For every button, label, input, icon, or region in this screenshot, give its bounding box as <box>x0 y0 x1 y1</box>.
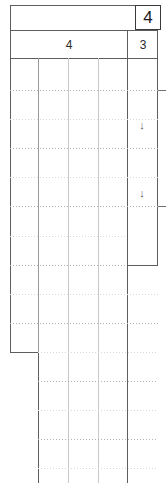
row-guide <box>38 410 158 411</box>
column-header-group-label: 4 <box>66 38 73 52</box>
row-guide <box>10 294 158 295</box>
row-guide <box>38 352 158 353</box>
row-guide <box>10 265 127 266</box>
row-guide <box>10 90 158 91</box>
column-header-group[interactable]: 4 <box>11 31 127 58</box>
outer-border-left-lower <box>38 352 39 483</box>
arrow-down-icon: ↓ <box>136 120 148 131</box>
column-header-single[interactable]: 3 <box>128 31 158 58</box>
row-guide <box>38 468 158 469</box>
arrow-down-glyph-1: ↓ <box>139 119 145 131</box>
edge-tick-2 <box>158 206 166 207</box>
row-guide <box>10 236 127 237</box>
arrow-down-icon: ↓ <box>136 188 148 199</box>
column-header-single-label: 3 <box>140 38 147 52</box>
row-guide <box>10 206 158 207</box>
header-vline-group-end <box>127 30 128 58</box>
outer-border-left-upper <box>10 5 11 31</box>
edge-tick-1 <box>158 90 166 91</box>
row-guide <box>10 323 158 324</box>
row-guide <box>10 148 158 149</box>
column-separator-2-lower <box>68 352 69 483</box>
right-column-bottom-border <box>127 265 158 266</box>
row-guide <box>10 177 158 178</box>
row-guide <box>38 381 158 382</box>
column-separator-4 <box>127 58 128 483</box>
grid-canvas: 4 4 3 ↓ ↓ <box>0 0 166 483</box>
row-guide <box>38 439 158 440</box>
corner-label-text: 4 <box>143 9 152 26</box>
header-vline-left <box>10 30 11 58</box>
arrow-down-glyph-2: ↓ <box>139 187 145 199</box>
header-vline-right <box>157 30 158 58</box>
left-block-bottom-border <box>10 352 38 353</box>
column-separator-3-lower <box>98 352 99 483</box>
corner-label-box[interactable]: 4 <box>135 5 161 30</box>
header-rule-lower <box>10 58 158 59</box>
